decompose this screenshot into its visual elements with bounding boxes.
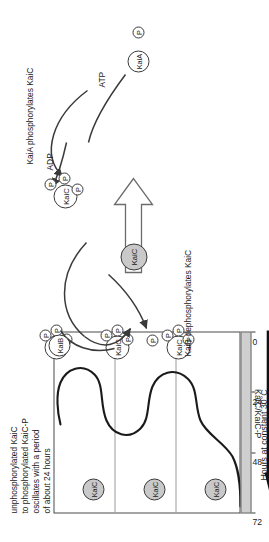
kai-cycle-panel: KaiC P P P KaiC KaiA P KaiB P (0, 0, 269, 542)
phosphate-label: P (46, 182, 55, 187)
cycle-kaic-unphos-label: KaiC (129, 248, 138, 264)
kaia-protein: KaiA (127, 50, 149, 72)
adp-label: ADP (44, 153, 54, 170)
cycle-arrows (0, 0, 269, 542)
atp-label: ATP (96, 71, 106, 87)
phosphate-icon: P (44, 178, 56, 190)
phosphate-label: P (134, 30, 143, 35)
cycle-kaic-unphos: KaiC (120, 243, 147, 270)
phosphate-label: P (148, 338, 157, 343)
cycle-kaicp-core-label: KaiC (61, 188, 70, 204)
free-phosphate-right-icon: P (146, 334, 158, 346)
phosphate-label: P (73, 187, 82, 192)
phosphate-label: P (60, 176, 69, 181)
kaia-reaction-label: KaiA phosphorylates KaiC (24, 67, 34, 164)
phosphate-icon: P (58, 172, 70, 184)
kaib-label: KaiB (55, 337, 64, 353)
phosphate-icon: P (71, 183, 83, 195)
figure-canvas: unphosphorylated KaiC to phosphorylated … (0, 0, 269, 542)
kaib-protein: KaiB (48, 334, 70, 356)
free-phosphate-left-icon: P (132, 26, 144, 38)
kaia-label: KaiA (134, 53, 143, 69)
kaib-reaction-label: KaiB dephosphorylates KaiC (182, 249, 192, 356)
